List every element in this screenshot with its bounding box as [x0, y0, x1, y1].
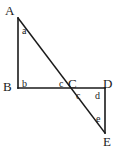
angle-label-c-upper-left: c: [59, 79, 63, 89]
segment-ae: [18, 18, 105, 133]
angle-label-b: b: [22, 79, 27, 89]
geometry-figure: A B C D E a b c c d e: [0, 0, 120, 152]
vertex-label-c: C: [68, 77, 77, 90]
angle-label-e: e: [96, 114, 100, 124]
angle-label-d: d: [95, 91, 100, 101]
figure-canvas: [0, 0, 120, 152]
vertex-label-b: B: [3, 80, 12, 93]
segment-layer: [18, 18, 105, 133]
vertex-label-e: E: [103, 135, 111, 148]
vertex-label-a: A: [5, 4, 14, 17]
angle-label-c-lower-right: c: [76, 91, 80, 101]
angle-label-a: a: [22, 26, 26, 36]
vertex-label-d: D: [103, 77, 112, 90]
